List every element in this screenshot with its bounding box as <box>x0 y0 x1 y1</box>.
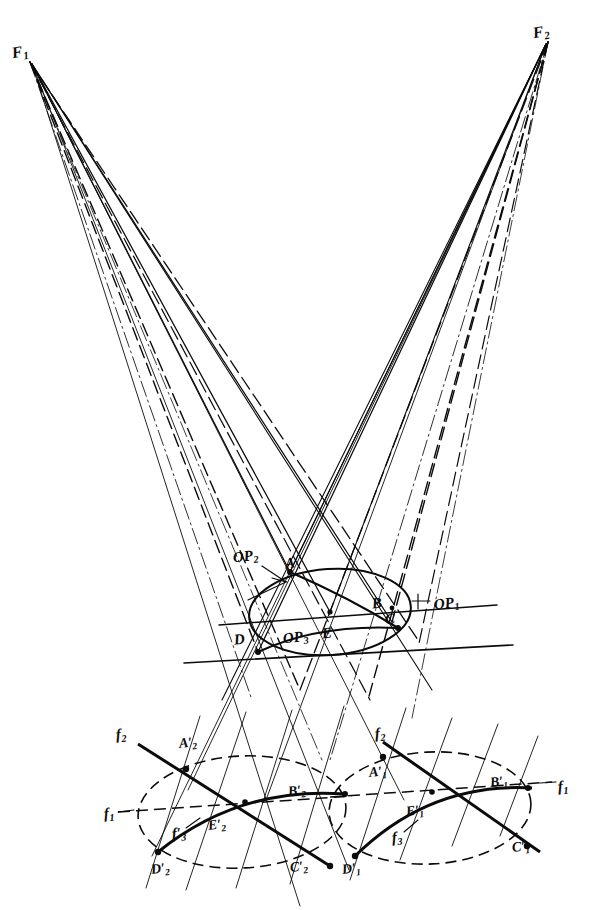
label-f2-left: f2 <box>115 727 127 745</box>
label-b2-prime: B′2 <box>287 783 307 801</box>
label-point-d: D <box>233 631 246 647</box>
label-op3: OP3 <box>282 629 309 649</box>
point-b1-marker <box>525 785 531 791</box>
point-c2-marker <box>327 863 333 869</box>
label-d1-prime: D′1 <box>341 861 361 879</box>
label-f3-right: f3 <box>391 830 403 848</box>
label-e2-prime: E′2 <box>207 817 227 835</box>
label-focus-right: F2 <box>532 23 551 43</box>
label-f3-left: f′3 <box>171 825 186 843</box>
label-b1-prime: B′1 <box>489 774 509 792</box>
point-e2-marker <box>242 799 248 805</box>
label-e1-prime: E′1 <box>405 803 425 821</box>
point-e1-marker <box>429 789 435 795</box>
point-a1-marker <box>380 754 386 760</box>
label-f1-right: f1 <box>557 779 569 797</box>
label-a1-prime: A′1 <box>368 764 388 782</box>
label-point-a: A <box>284 555 296 571</box>
label-point-b: B <box>371 595 383 611</box>
label-a2-prime: A′2 <box>178 735 198 753</box>
label-c2-prime: C′2 <box>289 859 309 877</box>
label-op1: OP1 <box>433 595 460 615</box>
label-focus-left: F1 <box>11 43 30 63</box>
point-e-marker <box>327 609 332 614</box>
label-point-e: E <box>321 625 333 641</box>
label-f2-right: f2 <box>374 726 386 744</box>
label-c1-prime: C′1 <box>511 839 531 857</box>
label-f1-left: f1 <box>103 806 115 824</box>
point-b2-marker <box>342 791 348 797</box>
label-d2-prime: D′2 <box>150 861 170 879</box>
point-d-marker <box>255 649 261 655</box>
label-point-c: C <box>384 611 396 627</box>
label-op2: OP2 <box>232 548 259 568</box>
